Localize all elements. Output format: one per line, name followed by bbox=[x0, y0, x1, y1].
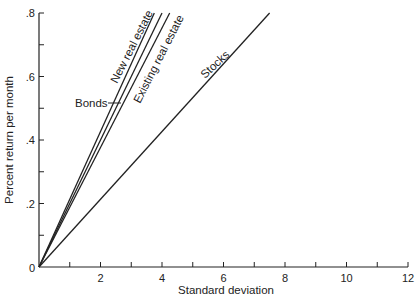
x-tick-label: 4 bbox=[159, 272, 165, 284]
series-line-bonds bbox=[39, 13, 162, 267]
x-tick-label: 6 bbox=[220, 272, 226, 284]
y-tick-label: .4 bbox=[26, 134, 35, 146]
series-line-stocks bbox=[39, 13, 270, 267]
x-axis-title: Standard deviation bbox=[178, 284, 274, 296]
y-tick-label: .6 bbox=[26, 71, 35, 83]
x-tick-label: 2 bbox=[97, 272, 103, 284]
tick-labels: 24681012.2.4.6.80 bbox=[26, 7, 414, 284]
label-stocks: Stocks bbox=[198, 48, 232, 80]
origin-label: 0 bbox=[29, 262, 35, 274]
series-line-existing-real-estate bbox=[39, 13, 170, 267]
x-tick-label: 8 bbox=[282, 272, 288, 284]
y-tick-label: .2 bbox=[26, 198, 35, 210]
y-axis-title: Percent return per month bbox=[3, 76, 15, 204]
x-tick-label: 12 bbox=[402, 272, 414, 284]
series-line-new-real-estate bbox=[39, 13, 154, 267]
risk-return-chart: 24681012.2.4.6.80 Standard deviation Per… bbox=[0, 0, 417, 302]
label-bonds: Bonds bbox=[75, 97, 108, 109]
series-lines bbox=[39, 13, 270, 267]
y-tick-label: .8 bbox=[26, 7, 35, 19]
x-tick-label: 10 bbox=[340, 272, 352, 284]
